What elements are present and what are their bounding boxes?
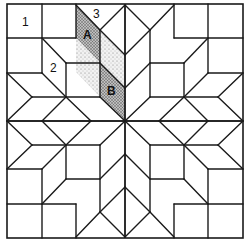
pattern-lines — [7, 4, 243, 238]
label-piece-2: 2 — [50, 61, 57, 75]
pattern-edge — [42, 179, 66, 204]
label-piece-3: 3 — [93, 7, 100, 21]
pattern-edge — [125, 212, 150, 237]
pattern-edge — [66, 121, 91, 145]
pattern-edge — [7, 73, 32, 97]
label-piece-1: 1 — [22, 15, 29, 29]
pattern-edge — [42, 73, 66, 97]
pattern-edge — [184, 179, 208, 204]
pattern-edge — [125, 121, 150, 145]
pattern-edge — [100, 212, 125, 237]
pattern-edge — [100, 154, 125, 179]
pattern-edge — [42, 145, 66, 169]
pattern-edge — [125, 97, 150, 121]
pattern-edge — [125, 154, 150, 179]
pattern-edge — [7, 145, 32, 169]
pattern-edge — [66, 97, 91, 121]
pattern-edge — [100, 187, 125, 212]
pattern-edge — [218, 97, 243, 121]
pattern-edge — [125, 63, 150, 88]
pattern-edge — [76, 212, 100, 237]
pattern-edge — [100, 121, 125, 145]
pattern-edge — [184, 145, 208, 169]
pattern-edge — [42, 121, 66, 145]
pattern-edge — [184, 38, 208, 63]
pattern-edge — [42, 97, 66, 121]
pattern-edge — [159, 121, 184, 145]
pattern-edge — [125, 5, 150, 30]
label-piece-b: B — [107, 84, 116, 98]
pattern-edge — [100, 5, 125, 30]
pattern-edge — [150, 5, 174, 30]
pattern-edge — [218, 121, 243, 145]
pattern-edge — [7, 97, 32, 121]
pattern-edge — [150, 212, 174, 237]
pattern-edge — [218, 145, 243, 169]
pattern-edge — [7, 121, 32, 145]
label-piece-a: A — [83, 28, 92, 42]
pattern-edge — [184, 121, 208, 145]
pattern-edge — [159, 97, 184, 121]
pattern-edge — [125, 187, 150, 212]
pattern-edge — [184, 97, 208, 121]
pattern-edge — [42, 38, 66, 63]
pattern-edge — [218, 73, 243, 97]
quilt-block-diagram: 1 2 3 A B — [0, 0, 246, 245]
pattern-edge — [125, 30, 150, 55]
pattern-edge — [184, 73, 208, 97]
